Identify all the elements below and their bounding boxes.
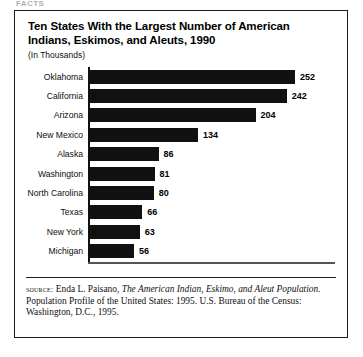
bar-row: Oklahoma252	[15, 67, 347, 86]
bar-value-label: 66	[142, 207, 157, 217]
bar-value-label: 134	[198, 130, 218, 140]
bar-fill	[88, 89, 287, 103]
bar-fill	[88, 225, 140, 239]
bar-track: 134	[88, 125, 347, 144]
bar-value-label: 86	[159, 149, 174, 159]
bar-row: New Mexico134	[15, 125, 347, 144]
bar-category-label: Alaska	[15, 149, 88, 159]
bar-fill	[88, 167, 155, 181]
bar-value-label: 56	[134, 246, 149, 256]
bar-row: Arizona204	[15, 106, 347, 125]
source-publication: Population Profile of the United States:…	[26, 296, 302, 318]
bar-fill	[88, 244, 134, 258]
bar-row: Washington81	[15, 164, 347, 183]
chart-title: Ten States With the Largest Number of Am…	[28, 20, 334, 47]
figure-frame: Ten States With the Largest Number of Am…	[14, 10, 348, 338]
bar-track: 80	[88, 183, 347, 202]
running-head: FACTS	[16, 0, 94, 7]
bar-row: Texas66	[15, 203, 347, 222]
title-block: Ten States With the Largest Number of Am…	[28, 20, 334, 60]
bar-category-label: New York	[15, 227, 88, 237]
bar-category-label: New Mexico	[15, 130, 88, 140]
bar-fill	[88, 128, 198, 142]
bar-track: 56	[88, 242, 347, 261]
bar-fill	[88, 186, 154, 200]
bar-value-label: 63	[140, 227, 155, 237]
bar-category-label: Washington	[15, 169, 88, 179]
bar-value-label: 242	[287, 91, 307, 101]
bar-category-label: California	[15, 91, 88, 101]
bar-row-list: Oklahoma252California242Arizona204New Me…	[15, 67, 347, 261]
bar-category-label: Arizona	[15, 110, 88, 120]
source-label: source:	[26, 284, 53, 294]
bar-fill	[88, 205, 142, 219]
source-note: source: Enda L. Paisano, The American In…	[26, 284, 334, 319]
bar-track: 86	[88, 145, 347, 164]
bar-value-label: 80	[154, 188, 169, 198]
bar-row: New York63	[15, 222, 347, 241]
source-divider	[26, 277, 336, 278]
source-author: Enda L. Paisano,	[56, 284, 120, 294]
bar-fill	[88, 70, 295, 84]
bar-chart-plot-area: Oklahoma252California242Arizona204New Me…	[15, 67, 347, 263]
bar-row: North Carolina80	[15, 183, 347, 202]
bar-value-label: 252	[295, 72, 315, 82]
bar-category-label: Michigan	[15, 246, 88, 256]
bar-track: 242	[88, 86, 347, 105]
bar-row: Michigan56	[15, 242, 347, 261]
chart-subtitle: (In Thousands)	[28, 50, 334, 60]
bar-fill	[88, 147, 159, 161]
bar-row: Alaska86	[15, 145, 347, 164]
value-axis-baseline	[88, 262, 335, 264]
bar-track: 252	[88, 67, 347, 86]
bar-value-label: 204	[256, 110, 276, 120]
bar-row: California242	[15, 86, 347, 105]
bar-track: 63	[88, 222, 347, 241]
bar-category-label: North Carolina	[15, 188, 88, 198]
bar-category-label: Texas	[15, 207, 88, 217]
bar-fill	[88, 108, 256, 122]
bar-value-label: 81	[155, 169, 170, 179]
source-work-title: The American Indian, Eskimo, and Aleut P…	[122, 284, 321, 294]
bar-track: 204	[88, 106, 347, 125]
bar-track: 66	[88, 203, 347, 222]
bar-track: 81	[88, 164, 347, 183]
bar-category-label: Oklahoma	[15, 72, 88, 82]
